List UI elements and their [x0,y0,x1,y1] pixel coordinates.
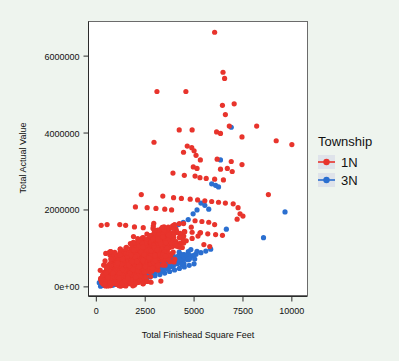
data-point [199,219,204,224]
data-point [123,223,128,228]
data-point [171,195,176,200]
data-point [191,261,196,266]
x-tick-label: 5000 [184,306,204,316]
data-point [220,233,225,238]
data-point [209,199,214,204]
data-point [201,242,206,247]
x-tick-label: 7500 [233,306,253,316]
data-point [131,267,136,272]
data-point [133,204,138,209]
data-point [192,174,197,179]
data-point [266,192,271,197]
data-point [203,249,208,254]
data-point [206,220,211,225]
data-point [131,247,136,252]
data-point [148,274,153,279]
data-point [181,233,186,238]
data-point [107,280,112,285]
legend-label-1n: 1N [341,155,358,170]
data-point [103,251,108,256]
data-point [192,218,197,223]
data-point [223,112,228,117]
data-point [191,211,196,216]
legend-title: Township [318,134,372,149]
data-point [155,263,160,268]
data-point [171,232,176,237]
data-point [169,207,174,212]
data-point [145,205,150,210]
legend-marker-1n [323,159,329,165]
data-point [144,279,149,284]
data-point [172,222,177,227]
data-point [189,225,194,230]
data-point [190,127,195,132]
data-point [155,237,160,242]
data-point [207,244,212,249]
data-point [213,232,218,237]
x-tick-label: 2500 [135,306,155,316]
data-point [142,270,147,275]
data-point [206,207,211,212]
data-point [181,150,186,155]
data-point [117,222,122,227]
data-point [197,175,202,180]
data-point [133,275,138,280]
data-point [172,257,177,262]
data-point [212,222,217,227]
y-axis-title: Total Actual Value [18,123,28,194]
data-point [183,89,188,94]
data-point [185,144,190,149]
data-point [227,124,232,129]
data-point [180,262,185,267]
data-point [99,223,104,228]
data-point [187,263,192,268]
data-point [188,247,193,252]
data-point [195,197,200,202]
data-point [136,264,141,269]
data-point [240,214,245,219]
data-point [140,258,145,263]
y-tick-label: 4000000 [44,129,79,139]
data-point [151,140,156,145]
data-point [136,238,141,243]
data-point [239,162,244,167]
data-point [221,177,226,182]
data-point [282,209,287,214]
data-point [162,207,167,212]
data-point [118,247,123,252]
data-point [182,173,187,178]
data-point [194,166,199,171]
data-point [131,234,136,239]
data-point [106,275,111,280]
data-point [108,249,113,254]
data-point [163,240,168,245]
data-point [104,222,109,227]
data-point [170,170,175,175]
data-point [188,255,193,260]
data-point [153,253,158,258]
data-point [204,176,209,181]
data-point [216,200,221,205]
data-point [212,30,217,35]
data-point [190,230,195,235]
data-point [179,196,184,201]
data-point [254,124,259,129]
data-point [108,256,113,261]
data-point [212,177,217,182]
data-point [129,259,134,264]
data-point [128,241,133,246]
y-tick-label: 0e+00 [54,282,79,292]
data-point [128,252,133,257]
data-point [230,169,235,174]
data-point [143,274,148,279]
x-tick-label: 10000 [279,306,304,316]
data-point [239,134,244,139]
data-point [232,101,237,106]
data-point [102,258,107,263]
data-point [102,281,107,286]
data-point [218,167,223,172]
data-point [225,166,230,171]
data-point [215,157,220,162]
data-point [163,254,168,259]
data-point [194,207,199,212]
